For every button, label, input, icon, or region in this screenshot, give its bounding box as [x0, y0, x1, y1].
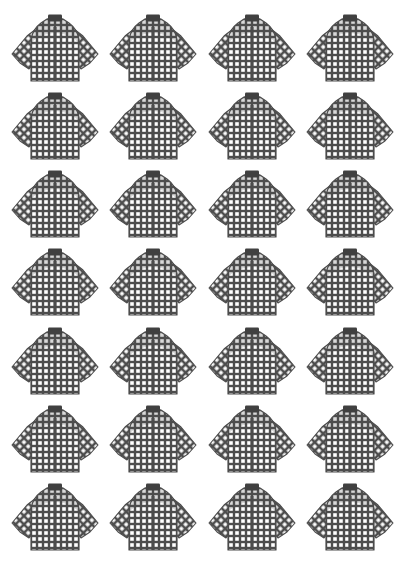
shirt-icon: shirt-26: [105, 482, 201, 554]
shirt-icon: shirt-15: [204, 247, 300, 319]
shirt-icon: shirt-24: [302, 404, 398, 476]
shirt-icon: shirt-3: [204, 13, 300, 85]
page-canvas: shirt-1shirt-2shirt-3shirt-4shirt-5shirt…: [0, 0, 405, 571]
shirt-icon: shirt-11: [204, 169, 300, 241]
shirt-cell: shirt-20: [301, 323, 399, 401]
shirt-cell: shirt-17: [6, 323, 104, 401]
shirt-cell: shirt-4: [301, 10, 399, 88]
shirt-cell: shirt-23: [203, 401, 301, 479]
shirt-cell: shirt-1: [6, 10, 104, 88]
shirt-cell: shirt-11: [203, 166, 301, 244]
shirt-cell: shirt-15: [203, 244, 301, 322]
shirt-cell: shirt-28: [301, 479, 399, 557]
shirt-cell: shirt-12: [301, 166, 399, 244]
shirt-icon: shirt-6: [105, 91, 201, 163]
shirt-cell: shirt-8: [301, 88, 399, 166]
shirt-icon: shirt-28: [302, 482, 398, 554]
shirt-cell: shirt-3: [203, 10, 301, 88]
shirt-icon: shirt-17: [7, 326, 103, 398]
shirt-icon: shirt-2: [105, 13, 201, 85]
shirt-cell: shirt-9: [6, 166, 104, 244]
shirt-cell: shirt-18: [104, 323, 202, 401]
shirt-icon: shirt-20: [302, 326, 398, 398]
shirt-cell: shirt-24: [301, 401, 399, 479]
shirt-cell: shirt-16: [301, 244, 399, 322]
shirt-cell: shirt-2: [104, 10, 202, 88]
shirt-grid: shirt-1shirt-2shirt-3shirt-4shirt-5shirt…: [0, 0, 405, 571]
shirt-icon: shirt-21: [7, 404, 103, 476]
shirt-icon: shirt-12: [302, 169, 398, 241]
shirt-icon: shirt-23: [204, 404, 300, 476]
shirt-cell: shirt-26: [104, 479, 202, 557]
shirt-cell: shirt-6: [104, 88, 202, 166]
shirt-icon: shirt-13: [7, 247, 103, 319]
shirt-icon: shirt-5: [7, 91, 103, 163]
shirt-icon: shirt-16: [302, 247, 398, 319]
shirt-icon: shirt-14: [105, 247, 201, 319]
shirt-cell: shirt-10: [104, 166, 202, 244]
shirt-icon: shirt-10: [105, 169, 201, 241]
shirt-cell: shirt-13: [6, 244, 104, 322]
shirt-cell: shirt-14: [104, 244, 202, 322]
shirt-cell: shirt-7: [203, 88, 301, 166]
shirt-cell: shirt-19: [203, 323, 301, 401]
shirt-icon: shirt-7: [204, 91, 300, 163]
shirt-icon: shirt-9: [7, 169, 103, 241]
shirt-icon: shirt-25: [7, 482, 103, 554]
shirt-icon: shirt-19: [204, 326, 300, 398]
shirt-icon: shirt-8: [302, 91, 398, 163]
shirt-cell: shirt-27: [203, 479, 301, 557]
shirt-icon: shirt-1: [7, 13, 103, 85]
shirt-icon: shirt-18: [105, 326, 201, 398]
shirt-cell: shirt-5: [6, 88, 104, 166]
shirt-icon: shirt-22: [105, 404, 201, 476]
shirt-cell: shirt-22: [104, 401, 202, 479]
shirt-icon: shirt-4: [302, 13, 398, 85]
shirt-cell: shirt-21: [6, 401, 104, 479]
shirt-cell: shirt-25: [6, 479, 104, 557]
shirt-icon: shirt-27: [204, 482, 300, 554]
